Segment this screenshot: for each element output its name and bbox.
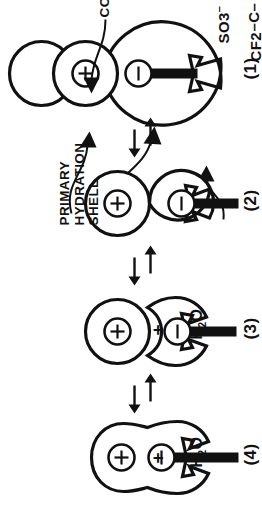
plus-4: + <box>147 452 168 464</box>
phs-line-3: SHELL <box>87 142 102 225</box>
h2o-sub-3: 2 <box>197 321 208 327</box>
stage-3-water-label: H2O <box>188 308 209 339</box>
so3-charge: – <box>213 5 225 12</box>
chemistry-figure: PRIMARY HYDRATION SHELL COUNTERION SO3– … <box>46 0 230 531</box>
stage-3-plus-sign: + <box>148 324 169 336</box>
phs-line-2: HYDRATION <box>72 142 87 225</box>
sulfonate-label: SO3– <box>214 5 230 43</box>
h2o-sub-4: 2 <box>197 449 208 455</box>
equilibrium-arrow-2-3 <box>124 243 164 285</box>
plus-3: + <box>147 324 168 336</box>
primary-hydration-shell-label: PRIMARY HYDRATION SHELL <box>58 142 102 225</box>
counterion-label: COUNTERION <box>98 0 113 17</box>
stage-4-water-label: H2O <box>188 436 209 467</box>
so3-text: SO3 <box>215 12 230 43</box>
stage-4-plus-sign: + <box>148 452 169 464</box>
counterion-text: COUNTERION <box>98 0 113 17</box>
leader-arrowhead-counterion <box>84 77 100 93</box>
equilibrium-arrow-3-4 <box>124 371 164 413</box>
equilibrium-arrow-1-2 <box>124 115 164 157</box>
polymer-tail <box>195 198 230 208</box>
phs-line-1: PRIMARY <box>58 142 73 225</box>
